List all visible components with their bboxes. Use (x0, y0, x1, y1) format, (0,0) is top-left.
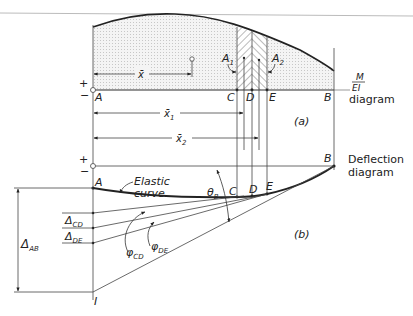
moment-area-diagram: x̄ x̄1 x̄2 + − A C D E B A1 A2 M EI diag… (0, 0, 413, 316)
label-point-e-b: E (266, 180, 273, 193)
label-theta-b: θB (207, 186, 219, 201)
label-point-c-b: C (229, 185, 237, 198)
label-phi-cd: φCD (126, 246, 144, 261)
label-mei-diagram: diagram (349, 93, 395, 106)
caption-b: (b) (294, 228, 310, 241)
tangent-at-c (93, 196, 244, 213)
label-point-a: A (94, 91, 103, 104)
label-xbar: x̄ (137, 69, 144, 80)
label-point-d-b: D (249, 183, 257, 196)
label-curve: curve (134, 187, 165, 200)
deflection-diagram: + − ΔAB ΔCD ΔDE φCD φDE (14, 152, 404, 308)
centroid-marker (190, 57, 194, 61)
label-point-b-b: B (324, 152, 332, 165)
label-deflection-diagram: diagram (348, 166, 394, 179)
label-point-e: E (269, 91, 276, 104)
mei-area (93, 14, 334, 90)
label-ei: EI (352, 83, 361, 93)
sign-minus-b: − (80, 165, 89, 178)
label-deflection: Deflection (348, 153, 404, 166)
label-delta-de: ΔDE (64, 230, 83, 245)
label-point-b: B (324, 91, 332, 104)
label-phi-de: φDE (151, 240, 169, 255)
tangent-at-d (93, 196, 259, 228)
label-point-c: C (227, 91, 235, 104)
label-point-d: D (246, 91, 254, 104)
caption-a: (a) (294, 115, 309, 128)
label-point-i: I (94, 295, 97, 308)
label-point-a-b: A (94, 176, 103, 189)
label-delta-cd: ΔCD (64, 214, 83, 229)
label-m: M (356, 72, 364, 82)
sign-minus-a: − (80, 89, 89, 102)
scan-edge-line (0, 13, 413, 16)
tangent-at-e (93, 194, 267, 243)
